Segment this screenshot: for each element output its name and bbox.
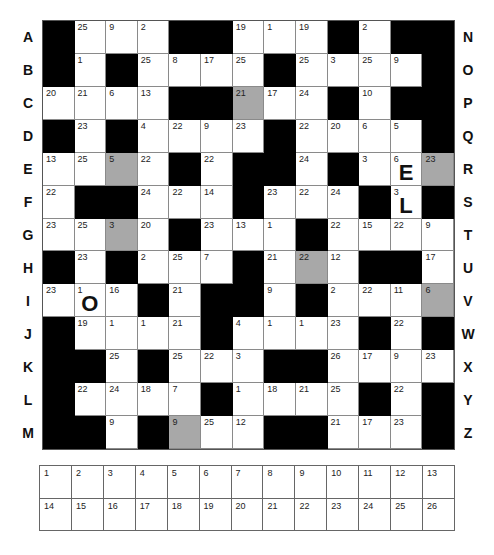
answer-key-cell[interactable]: 3	[104, 466, 136, 499]
grid-cell[interactable]: 22	[391, 383, 423, 416]
grid-cell[interactable]: 1	[138, 317, 170, 350]
grid-cell[interactable]: 23	[391, 416, 423, 449]
answer-key-cell[interactable]: 7	[232, 466, 264, 499]
grid-cell[interactable]: 21	[75, 87, 107, 120]
grid-cell[interactable]: 13	[233, 219, 265, 252]
grid-cell[interactable]: 23	[328, 317, 360, 350]
answer-key-cell[interactable]: 24	[359, 499, 391, 532]
answer-key-cell[interactable]: 10	[327, 466, 359, 499]
grid-cell[interactable]: 22	[201, 350, 233, 383]
grid-cell[interactable]: 26	[328, 350, 360, 383]
answer-key-cell[interactable]: 14	[40, 499, 72, 532]
grid-cell[interactable]: 1	[264, 317, 296, 350]
grid-cell[interactable]: 18	[138, 383, 170, 416]
answer-key-cell[interactable]: 1	[40, 466, 72, 499]
answer-key-cell[interactable]: 11	[359, 466, 391, 499]
grid-cell[interactable]: 25	[296, 54, 328, 87]
grid-cell[interactable]: 7	[169, 383, 201, 416]
answer-key-cell[interactable]: 20	[232, 499, 264, 532]
answer-key-cell[interactable]: 21	[263, 499, 295, 532]
shaded-grid-cell[interactable]: 5	[106, 153, 138, 186]
grid-cell[interactable]: 22	[328, 219, 360, 252]
answer-key-cell[interactable]: 25	[391, 499, 423, 532]
grid-cell[interactable]: 3	[359, 153, 391, 186]
grid-cell[interactable]: 22	[75, 383, 107, 416]
grid-cell[interactable]: 25	[75, 153, 107, 186]
answer-key-cell[interactable]: 16	[104, 499, 136, 532]
grid-cell[interactable]: 24	[328, 186, 360, 219]
grid-cell[interactable]: 19	[75, 317, 107, 350]
grid-cell[interactable]: 15	[359, 219, 391, 252]
grid-cell[interactable]: 20	[138, 219, 170, 252]
grid-cell[interactable]: 17	[201, 54, 233, 87]
grid-cell[interactable]: 19	[233, 21, 265, 54]
grid-cell[interactable]: 25	[169, 350, 201, 383]
grid-cell[interactable]: 1	[106, 317, 138, 350]
grid-cell[interactable]: 25	[169, 251, 201, 284]
grid-cell[interactable]: 1	[264, 21, 296, 54]
grid-cell[interactable]: 18	[264, 383, 296, 416]
grid-cell[interactable]: 21	[328, 416, 360, 449]
shaded-grid-cell[interactable]: 9	[169, 416, 201, 449]
grid-cell[interactable]: 9	[201, 120, 233, 153]
grid-cell[interactable]: 22	[43, 186, 75, 219]
grid-cell[interactable]: 25	[201, 416, 233, 449]
grid-cell[interactable]: 9	[391, 54, 423, 87]
grid-cell[interactable]: 21	[169, 317, 201, 350]
grid-cell[interactable]: 24	[296, 87, 328, 120]
answer-key-cell[interactable]: 23	[327, 499, 359, 532]
grid-cell[interactable]: 20	[43, 87, 75, 120]
grid-cell[interactable]: 12	[233, 416, 265, 449]
grid-cell[interactable]: 8	[169, 54, 201, 87]
shaded-grid-cell[interactable]: 22	[296, 251, 328, 284]
grid-cell[interactable]: 9	[106, 21, 138, 54]
grid-cell[interactable]: 16	[106, 284, 138, 317]
grid-cell[interactable]: 22	[296, 186, 328, 219]
grid-cell[interactable]: 22	[169, 186, 201, 219]
grid-cell[interactable]: 17	[359, 416, 391, 449]
grid-cell[interactable]: 1	[296, 317, 328, 350]
grid-cell[interactable]: 22	[296, 120, 328, 153]
answer-key-cell[interactable]: 12	[391, 466, 423, 499]
grid-cell[interactable]: 23	[75, 120, 107, 153]
grid-cell[interactable]: 22	[391, 317, 423, 350]
grid-cell[interactable]: 9	[264, 284, 296, 317]
grid-cell[interactable]: 22	[201, 153, 233, 186]
grid-cell[interactable]: 9	[422, 219, 454, 252]
grid-cell[interactable]: 25	[75, 219, 107, 252]
grid-cell[interactable]: 11	[391, 284, 423, 317]
answer-key-cell[interactable]: 6	[200, 466, 232, 499]
grid-cell[interactable]: 21	[296, 383, 328, 416]
answer-key-cell[interactable]: 22	[295, 499, 327, 532]
grid-cell[interactable]: 1O	[75, 284, 107, 317]
grid-cell[interactable]: 23	[264, 186, 296, 219]
grid-cell[interactable]: 9	[391, 350, 423, 383]
grid-cell[interactable]: 25	[328, 383, 360, 416]
shaded-grid-cell[interactable]: 21	[233, 87, 265, 120]
grid-cell[interactable]: 6E	[391, 153, 423, 186]
grid-cell[interactable]: 22	[359, 284, 391, 317]
answer-key-cell[interactable]: 19	[200, 499, 232, 532]
grid-cell[interactable]: 5	[391, 120, 423, 153]
answer-key-cell[interactable]: 15	[72, 499, 104, 532]
grid-cell[interactable]: 13	[43, 153, 75, 186]
grid-cell[interactable]: 3L	[391, 186, 423, 219]
grid-cell[interactable]: 21	[169, 284, 201, 317]
grid-cell[interactable]: 22	[138, 153, 170, 186]
answer-key-cell[interactable]: 9	[295, 466, 327, 499]
grid-cell[interactable]: 22	[391, 219, 423, 252]
grid-cell[interactable]: 24	[296, 153, 328, 186]
grid-cell[interactable]: 2	[359, 21, 391, 54]
grid-cell[interactable]: 25	[75, 21, 107, 54]
grid-cell[interactable]: 17	[359, 350, 391, 383]
answer-key-cell[interactable]: 17	[136, 499, 168, 532]
grid-cell[interactable]: 23	[43, 284, 75, 317]
grid-cell[interactable]: 24	[106, 383, 138, 416]
grid-cell[interactable]: 3	[328, 54, 360, 87]
grid-cell[interactable]: 9	[106, 416, 138, 449]
grid-cell[interactable]: 2	[138, 251, 170, 284]
grid-cell[interactable]: 25	[106, 350, 138, 383]
grid-cell[interactable]: 17	[422, 251, 454, 284]
answer-key-cell[interactable]: 5	[168, 466, 200, 499]
grid-cell[interactable]: 24	[138, 186, 170, 219]
